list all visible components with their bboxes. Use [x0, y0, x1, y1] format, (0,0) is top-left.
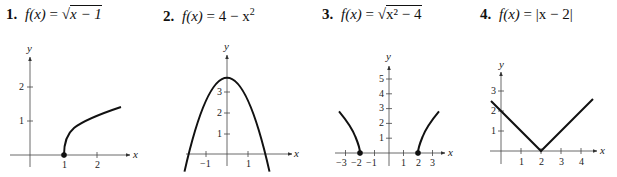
y-tick-label: 1: [491, 125, 496, 136]
y-tick-label: 2: [19, 81, 24, 92]
y-tick-label: 3: [491, 85, 496, 96]
endpoint-left: [357, 150, 363, 156]
x-tick-label: 2: [95, 159, 100, 170]
endpoint: [61, 152, 67, 158]
x-tick-label: 1: [401, 157, 406, 168]
graph-4: x y 1 2 3 4 1 2 3: [490, 58, 605, 167]
x-tick-label: 3: [559, 156, 564, 167]
x-tick-label: 2: [416, 157, 421, 168]
x-tick-label: 1: [62, 159, 67, 170]
x-tick-label: 1: [246, 158, 251, 169]
y-axis-label: y: [385, 50, 391, 62]
y-axis-label: y: [498, 58, 504, 70]
graph-1: x y 1 2 1 2: [10, 42, 138, 170]
x-tick-label: 1: [519, 156, 524, 167]
x-tick-label: 3: [430, 157, 435, 168]
curve-absolute-value: [491, 99, 593, 151]
x-axis-label: x: [132, 148, 138, 160]
x-tick-label: −1: [200, 158, 211, 169]
curve-right-branch: [418, 111, 439, 153]
graphs-canvas: x y 1 2 1 2 x y −1 1 1 2 3 x y: [0, 0, 617, 177]
x-tick-label: 4: [579, 156, 584, 167]
x-tick-label: −3: [336, 157, 347, 168]
y-tick-label: 2: [217, 107, 222, 118]
x-axis-label: x: [599, 144, 605, 156]
y-tick-label: 5: [379, 73, 384, 84]
curve-sqrt-x-minus-1: [64, 107, 121, 155]
y-axis-label: y: [26, 42, 32, 54]
x-tick-label: −2: [351, 157, 362, 168]
y-tick-label: 1: [19, 115, 24, 126]
y-tick-label: 1: [379, 132, 384, 143]
x-axis-label: x: [447, 146, 453, 158]
x-tick-label: −1: [366, 157, 377, 168]
y-tick-label: 1: [217, 128, 222, 139]
curve-left-branch: [339, 111, 360, 153]
x-axis-label: x: [293, 147, 299, 159]
y-tick-label: 3: [217, 86, 222, 97]
graph-2: x y −1 1 1 2 3: [185, 40, 300, 172]
y-tick-label: 2: [379, 117, 384, 128]
y-tick-label: 4: [379, 88, 384, 99]
y-tick-label: 3: [379, 102, 384, 113]
x-tick-label: 2: [539, 156, 544, 167]
graph-3: x y −3 −2 −1 1 2 3 1 2 3 4 5: [335, 50, 453, 168]
endpoint-right: [415, 150, 421, 156]
y-axis-label: y: [223, 40, 229, 52]
